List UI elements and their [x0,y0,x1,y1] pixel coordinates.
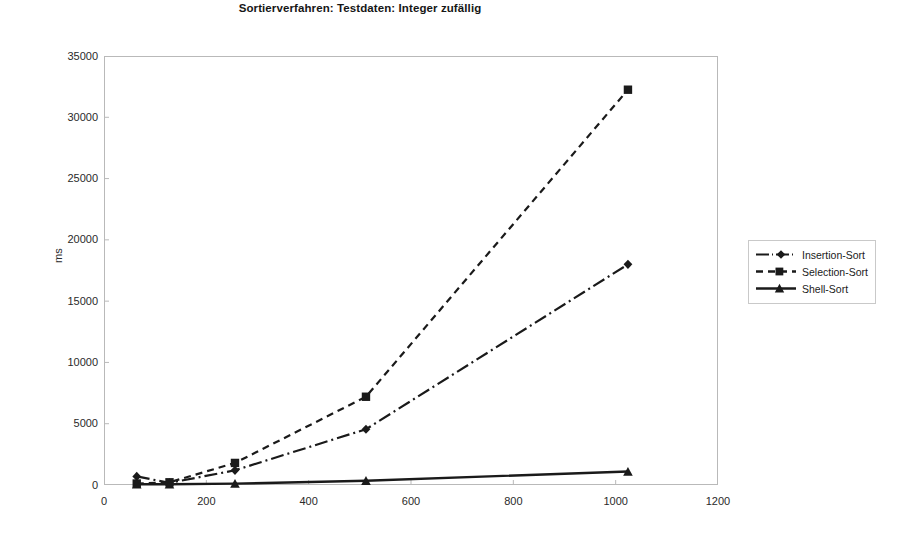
chart-legend: Insertion-Sort Selection-Sort Shell-Sort [748,240,876,304]
x-tick-label: 1200 [683,495,753,507]
series-insertion-sort [132,260,632,488]
legend-label-shell-sort: Shell-Sort [802,283,848,295]
plot-series-canvas [104,56,718,485]
x-tick-label: 0 [69,495,139,507]
x-tick-label: 600 [376,495,446,507]
legend-label-insertion-sort: Insertion-Sort [802,249,865,261]
sorting-benchmark-chart: Sortierverfahren: Testdaten: Integer zuf… [0,0,916,545]
legend-swatch-selection-sort [754,264,798,279]
y-tick-label: 5000 [38,418,98,429]
legend-label-selection-sort: Selection-Sort [802,266,868,278]
y-tick-label: 20000 [38,234,98,245]
series-selection-sort [133,86,633,488]
y-tick-label: 15000 [38,296,98,307]
x-tick-label: 200 [171,495,241,507]
x-tick-label: 1000 [581,495,651,507]
legend-item-insertion-sort[interactable]: Insertion-Sort [754,246,868,263]
chart-title: Sortierverfahren: Testdaten: Integer zuf… [0,2,720,14]
legend-item-shell-sort[interactable]: Shell-Sort [754,280,868,297]
y-tick-label: 35000 [38,51,98,62]
legend-swatch-shell-sort [754,281,798,296]
y-tick-label: 30000 [38,112,98,123]
y-tick-label: 25000 [38,173,98,184]
y-tick-label: 10000 [38,357,98,368]
legend-swatch-insertion-sort [754,247,798,262]
legend-item-selection-sort[interactable]: Selection-Sort [754,263,868,280]
x-tick-label: 400 [274,495,344,507]
x-tick-label: 800 [478,495,548,507]
y-tick-label: 0 [38,480,98,491]
y-axis-tick-labels: 05000100001500020000250003000035000 [34,0,98,545]
